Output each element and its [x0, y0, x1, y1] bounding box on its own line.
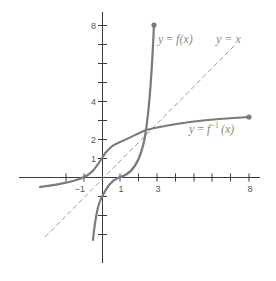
f-endpoint-dot [151, 22, 156, 27]
graph-canvas: −1 1 3 8 8 4 2 1 y = f(x) y = x y = f−1(… [0, 0, 276, 281]
x-tick-label-8: 8 [247, 184, 252, 194]
x-tick-label-3: 3 [155, 184, 160, 194]
f-label: y = f(x) [157, 32, 193, 46]
y-tick-labels: 8 4 2 1 [91, 21, 96, 164]
y-tick-label-4: 4 [91, 97, 96, 107]
x-tick-label-1: 1 [118, 184, 123, 194]
y-tick-label-2: 2 [91, 135, 96, 145]
inverse-function-graph: −1 1 3 8 8 4 2 1 y = f(x) y = x y = f−1(… [0, 0, 276, 281]
y-tick-label-8: 8 [91, 21, 96, 31]
identity-label: y = x [215, 32, 241, 46]
f-inverse-label: y = f−1(x) [188, 121, 234, 136]
x-tick-labels: −1 1 3 8 [75, 184, 253, 194]
y-tick-label-1: 1 [91, 154, 96, 164]
x-tick-label-neg1: −1 [75, 184, 85, 194]
axes [19, 12, 260, 263]
f-inverse-endpoint-dot [246, 114, 251, 119]
identity-line [45, 45, 235, 237]
